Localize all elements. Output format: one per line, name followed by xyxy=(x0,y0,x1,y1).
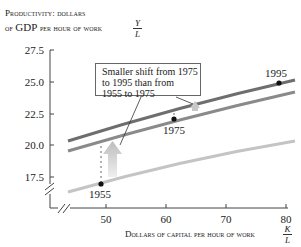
x-axis-fraction: K L xyxy=(283,224,292,245)
x-tick-60: 60 xyxy=(151,213,181,225)
chart-plot-area xyxy=(0,0,301,247)
callout-line1: Smaller shift from 1975 xyxy=(102,66,200,77)
point-1975 xyxy=(171,116,176,121)
x-axis-title: Dollars of capital per hour of work xyxy=(125,229,255,239)
point-1955 xyxy=(98,181,103,186)
callout-line2: to 1995 than from xyxy=(102,77,200,88)
callout-line3: 1955 to 1975 xyxy=(102,88,200,99)
x-tick-50: 50 xyxy=(91,213,121,225)
large-shift-arrow-icon xyxy=(103,141,122,177)
x-axis-ticks xyxy=(106,204,286,208)
point-1995 xyxy=(276,80,281,85)
label-1995: 1995 xyxy=(265,67,287,79)
x-tick-70: 70 xyxy=(211,213,241,225)
label-1975: 1975 xyxy=(163,124,185,136)
x-frac-numerator: K xyxy=(284,224,290,234)
x-frac-denominator: L xyxy=(285,235,290,245)
curve-1975 xyxy=(68,92,295,151)
y-axis-ticks xyxy=(50,50,54,177)
label-1955: 1955 xyxy=(89,188,111,200)
callout-box: Smaller shift from 1975 to 1995 than fro… xyxy=(95,63,201,96)
